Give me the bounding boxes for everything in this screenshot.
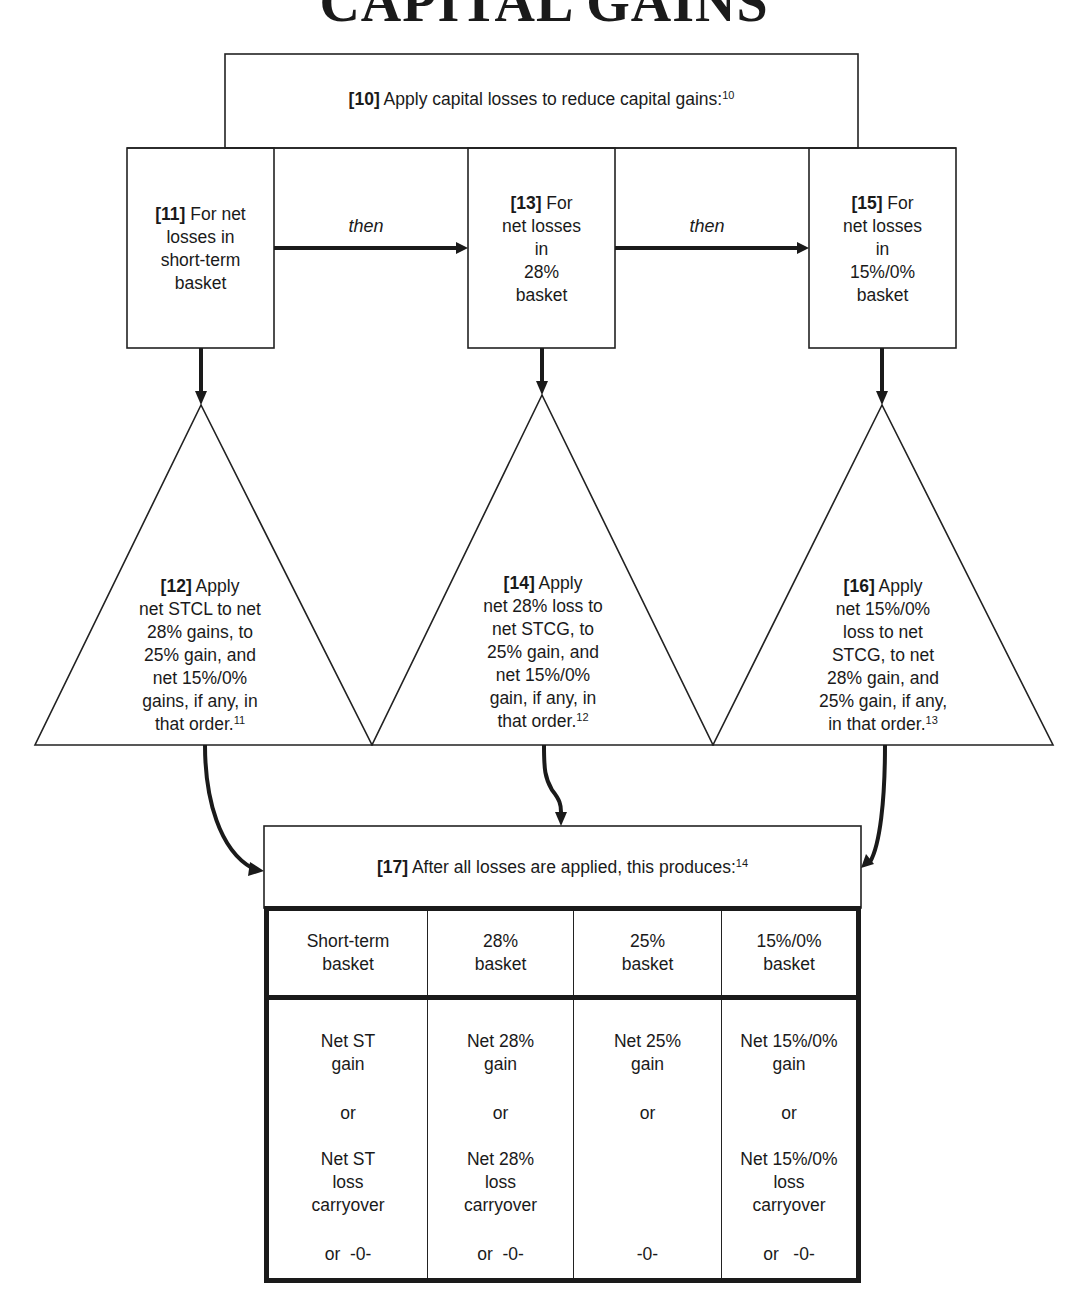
cell-28: Net 28% gain or Net 28% loss carryover o… <box>428 998 574 1281</box>
cell-15-0: Net 15%/0% gain or Net 15%/0% loss carry… <box>722 998 859 1281</box>
step13-text: [13] For net losses in 28% basket <box>468 192 615 307</box>
header-25: 25%basket <box>574 909 722 998</box>
table-row: Net ST gain or Net ST loss carryover or … <box>267 998 859 1281</box>
header-28: 28%basket <box>428 909 574 998</box>
header-short-term: Short-termbasket <box>267 909 428 998</box>
header-15-0: 15%/0%basket <box>722 909 859 998</box>
step10-number: [10] <box>349 89 380 109</box>
step16-text: [16] Apply net 15%/0% loss to net STCG, … <box>783 575 983 736</box>
step17-text: [17] After all losses are applied, this … <box>264 856 861 879</box>
cell-25: Net 25% gain or -0- <box>574 998 722 1281</box>
footnote-ref: 14 <box>736 857 748 869</box>
then-label-2: then <box>615 216 799 237</box>
table-header-row: Short-termbasket 28%basket 25%basket 15%… <box>267 909 859 998</box>
cell-short-term: Net ST gain or Net ST loss carryover or … <box>267 998 428 1281</box>
footnote-ref: 10 <box>722 89 734 101</box>
step17-number: [17] <box>377 857 408 877</box>
then-label-1: then <box>274 216 458 237</box>
step14-text: [14] Apply net 28% loss to net STCG, to … <box>443 572 643 733</box>
step10-text: [10] Apply capital losses to reduce capi… <box>225 88 858 111</box>
step12-text: [12] Apply net STCL to net 28% gains, to… <box>100 575 300 736</box>
step15-text: [15] For net losses in 15%/0% basket <box>809 192 956 307</box>
result-baskets-table: Short-termbasket 28%basket 25%basket 15%… <box>264 906 861 1283</box>
step11-text: [11] For net losses in short-term basket <box>127 203 274 295</box>
